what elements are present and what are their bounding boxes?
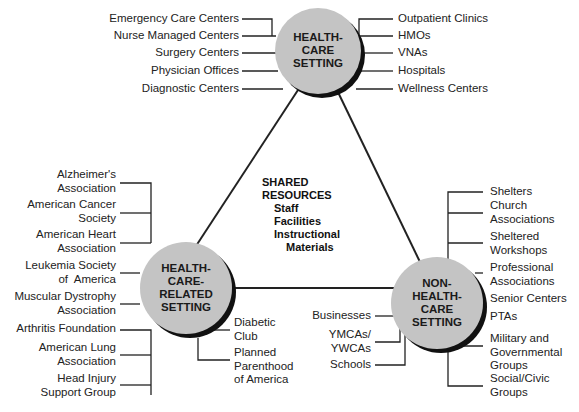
list-item: Physician Offices (151, 64, 239, 78)
list-item: Nurse Managed Centers (114, 29, 239, 43)
list-item: Outpatient Clinics (398, 12, 488, 26)
shared-resource-facilities: Facilities (274, 215, 321, 228)
list-item: Sheltered Workshops (490, 230, 547, 257)
list-item: Shelters (490, 185, 532, 199)
list-item: Church Associations (490, 199, 555, 226)
list-item: Businesses (312, 309, 371, 323)
shared-resource-instructional: Instructional (274, 228, 340, 241)
list-item: HMOs (398, 29, 431, 43)
list-item: American Heart Association (36, 228, 116, 255)
list-item: Wellness Centers (398, 82, 488, 96)
list-item: Diagnostic Centers (142, 82, 239, 96)
list-item: Muscular Dystrophy Association (14, 290, 116, 317)
list-item: Schools (330, 358, 371, 372)
list-item: Alzheimer's Association (57, 168, 116, 195)
list-item: Leukemia Society of America (25, 259, 116, 286)
list-item: YMCAs/ YWCAs (329, 328, 371, 355)
list-item: Planned Parenthood of America (234, 346, 293, 387)
list-item: American Cancer Society (27, 198, 116, 225)
list-item: Surgery Centers (155, 46, 239, 60)
node-non-health-care-setting: NON- HEALTH- CARE SETTING (397, 277, 477, 329)
list-item: Diabetic Club (234, 316, 276, 343)
list-item: PTAs (490, 310, 517, 324)
list-item: Head Injury Support Group (41, 372, 116, 399)
diagram-canvas: HEALTH- CARE SETTING HEALTH- CARE- RELAT… (0, 0, 579, 412)
shared-resource-materials: Materials (286, 241, 334, 254)
list-item: Arthritis Foundation (16, 322, 116, 336)
list-item: VNAs (398, 46, 427, 60)
shared-resources-title: SHARED RESOURCES (262, 176, 332, 202)
list-item: Professional Associations (490, 261, 555, 288)
node-health-care-setting: HEALTH- CARE SETTING (278, 31, 358, 70)
list-item: Hospitals (398, 64, 445, 78)
list-item: Military and Governmental Groups (490, 332, 562, 373)
list-item: Emergency Care Centers (109, 12, 239, 26)
shared-resource-staff: Staff (274, 202, 298, 215)
list-item: Senior Centers (490, 292, 567, 306)
list-item: Social/Civic Groups (490, 372, 549, 399)
node-health-care-related-setting: HEALTH- CARE- RELATED SETTING (146, 262, 226, 314)
list-item: American Lung Association (39, 341, 116, 368)
